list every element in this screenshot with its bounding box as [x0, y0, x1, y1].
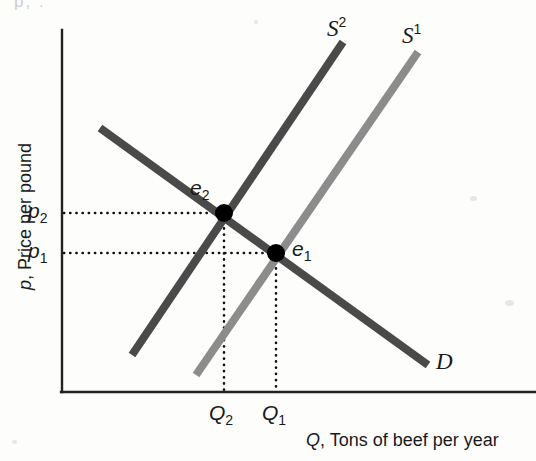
axes-group	[61, 30, 536, 392]
point-label-e1: e1	[292, 238, 311, 263]
equilibrium-point-e1	[267, 244, 285, 262]
equilibrium-point-e2	[215, 204, 233, 222]
x-tick-label-q2: Q2	[209, 402, 233, 427]
curve-label-s2: S2	[327, 15, 346, 40]
x-axis-title: Q, Tons of beef per year	[306, 431, 499, 449]
point-label-e2: e2	[190, 177, 209, 202]
curves-group	[100, 42, 428, 375]
y-axis-title: p, Price per pound	[16, 143, 34, 290]
x-tick-label-q1: Q1	[262, 402, 286, 427]
supply-demand-figure: p, . S2 S1	[0, 0, 536, 461]
plot-canvas	[0, 0, 536, 461]
curve-label-s1: S1	[402, 22, 421, 47]
curve-label-d: D	[436, 350, 453, 373]
